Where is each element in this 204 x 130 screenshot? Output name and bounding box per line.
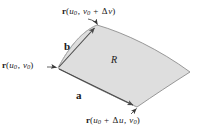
leader-line-left [47, 67, 57, 68]
leader-line-top [88, 19, 98, 25]
corner-label-top: r(u0, v0 + Δv) [62, 7, 115, 17]
leader-line-bottom [131, 109, 137, 115]
delta-var-bottom: u [119, 115, 124, 125]
vector-label-a: a [76, 90, 82, 101]
paren-close-left: ) [30, 60, 33, 70]
plus-operator-bottom: + [101, 115, 112, 125]
delta-symbol-bottom: Δ [112, 115, 119, 125]
corner-label-bottom: r(u0 + Δu, v0) [86, 116, 140, 126]
vector-label-b: b [64, 41, 70, 52]
plus-operator-top: + [90, 6, 101, 16]
corner-label-left: r(u0, v0) [2, 61, 33, 71]
region-label-R: R [111, 55, 117, 65]
surface-patch-figure: r(u0, v0 + Δv) r(u0, v0) r(u0 + Δu, v0) … [0, 0, 204, 130]
paren-close-top: ) [112, 6, 115, 16]
paren-close-bottom: ) [137, 115, 140, 125]
